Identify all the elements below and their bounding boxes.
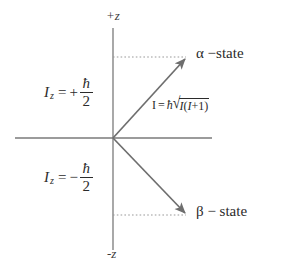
alpha-iz-subscript: z bbox=[50, 90, 54, 101]
spin-vector-diagram: +z -z α −state β − state Iz = + ħ 2 Iz =… bbox=[0, 0, 281, 272]
spin-magnitude-formula: I = ħ √ I(I+1) bbox=[152, 98, 209, 114]
beta-state-label: β − state bbox=[196, 203, 247, 220]
radicand-close-paren: ) bbox=[204, 99, 208, 113]
beta-iz-numerator: ħ bbox=[81, 161, 93, 177]
radical-sign-icon: √ bbox=[173, 96, 181, 114]
beta-spin-vector-arrow bbox=[113, 138, 185, 213]
alpha-state-label: α −state bbox=[196, 45, 244, 62]
beta-iz-sign: − bbox=[69, 169, 78, 186]
magnitude-radical: √ I(I+1) bbox=[173, 98, 209, 114]
alpha-iz-fraction: ħ 2 bbox=[80, 76, 93, 109]
magnitude-relation: = bbox=[158, 98, 167, 113]
alpha-iz-sign: + bbox=[69, 84, 78, 101]
beta-iz-fraction: ħ 2 bbox=[80, 161, 93, 194]
magnitude-radicand: I(I+1) bbox=[179, 98, 209, 114]
alpha-iz-relation: = bbox=[54, 84, 69, 101]
alpha-iz-equation: Iz = + ħ 2 bbox=[44, 76, 93, 109]
beta-iz-relation: = bbox=[54, 169, 69, 186]
alpha-iz-denominator: 2 bbox=[81, 93, 93, 109]
beta-iz-equation: Iz = − ħ 2 bbox=[44, 161, 93, 194]
beta-iz-subscript: z bbox=[50, 175, 54, 186]
beta-iz-denominator: 2 bbox=[81, 178, 93, 194]
alpha-iz-numerator: ħ bbox=[81, 76, 93, 92]
axis-label-negative-z: -z bbox=[107, 246, 116, 262]
diagram-canvas bbox=[0, 0, 281, 272]
axis-label-positive-z: +z bbox=[106, 8, 120, 24]
